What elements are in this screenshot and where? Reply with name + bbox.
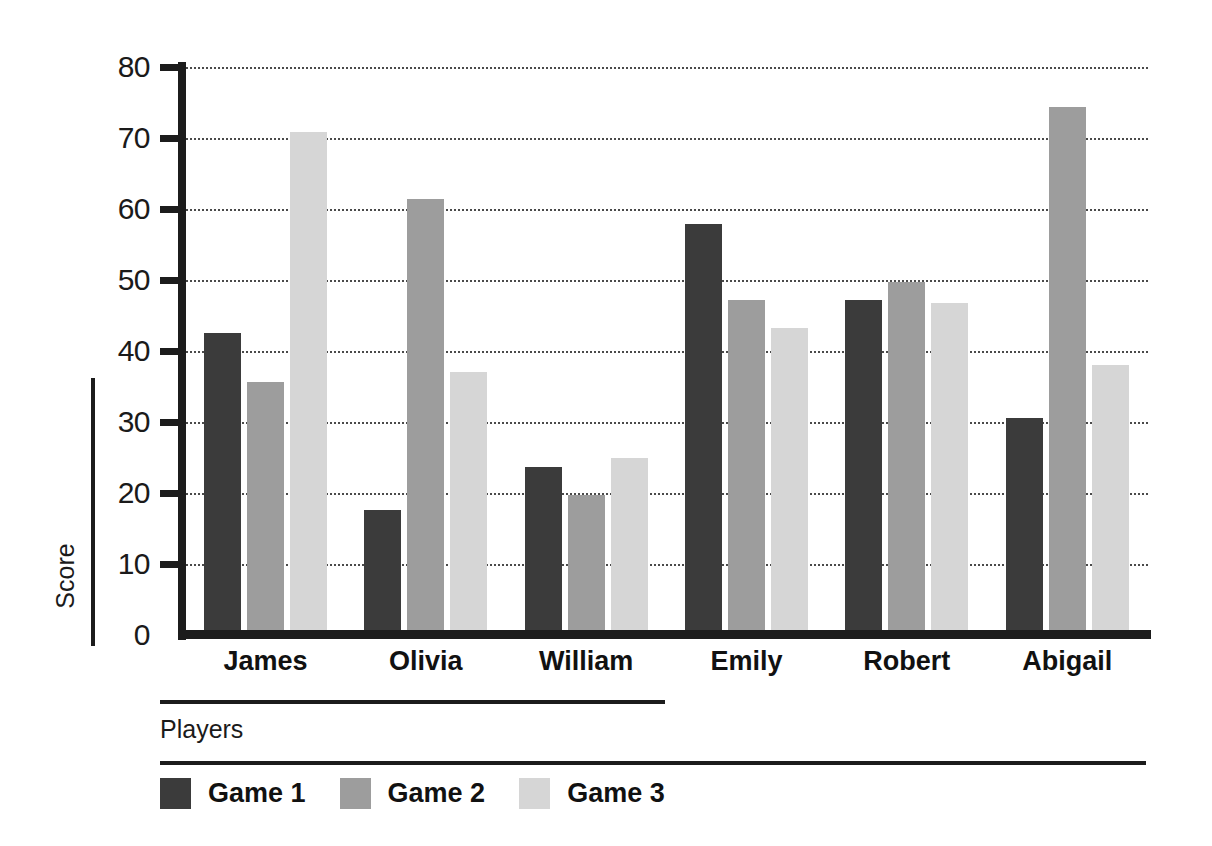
bar-group-robert (845, 67, 968, 635)
gridline-80 (186, 67, 1148, 69)
y-tick-label-wrap-80: 80 (45, 52, 150, 82)
bar-chart: 01020304050607080 JamesOliviaWilliamEmil… (0, 0, 1212, 846)
gridline-40 (186, 351, 1148, 353)
y-tick-mark-40 (160, 348, 180, 355)
bar-robert-game-3[interactable] (931, 303, 968, 635)
legend-swatch-icon (340, 778, 371, 809)
bar-olivia-game-1[interactable] (364, 510, 401, 635)
bar-group-william (525, 67, 648, 635)
x-axis-title-rule (160, 700, 665, 704)
plot-area (186, 67, 1148, 635)
legend-item-game-3[interactable]: Game 3 (519, 778, 665, 809)
bar-olivia-game-3[interactable] (450, 372, 487, 635)
gridline-60 (186, 209, 1148, 211)
gridline-70 (186, 138, 1148, 140)
bar-abigail-game-1[interactable] (1006, 418, 1043, 635)
bar-james-game-3[interactable] (290, 132, 327, 635)
y-tick-mark-20 (160, 490, 180, 497)
y-tick-mark-70 (160, 135, 180, 142)
gridline-50 (186, 280, 1148, 282)
bar-group-james (204, 67, 327, 635)
bar-william-game-1[interactable] (525, 467, 562, 635)
x-axis-line (178, 630, 1151, 639)
y-tick-mark-30 (160, 419, 180, 426)
legend-swatch-icon (519, 778, 550, 809)
y-tick-label: 0 (90, 620, 150, 650)
legend-item-game-2[interactable]: Game 2 (340, 778, 486, 809)
gridline-20 (186, 493, 1148, 495)
y-tick-mark-60 (160, 206, 180, 213)
y-tick-label-wrap-50: 50 (45, 265, 150, 295)
y-tick-label: 10 (90, 549, 150, 579)
y-tick-label: 70 (90, 123, 150, 153)
bar-james-game-2[interactable] (247, 382, 284, 635)
y-tick-label: 30 (90, 407, 150, 437)
y-tick-label: 50 (90, 265, 150, 295)
bar-group-emily (685, 67, 808, 635)
bar-group-olivia (364, 67, 487, 635)
y-axis-title-rule (91, 378, 95, 646)
y-tick-label: 20 (90, 478, 150, 508)
legend: Game 1Game 2Game 3 (160, 778, 699, 809)
bar-abigail-game-2[interactable] (1049, 107, 1086, 635)
bar-james-game-1[interactable] (204, 333, 241, 635)
bar-robert-game-1[interactable] (845, 300, 882, 635)
legend-label: Game 3 (567, 778, 665, 809)
category-label-abigail: Abigail (957, 646, 1177, 677)
bar-abigail-game-3[interactable] (1092, 365, 1129, 636)
y-tick-label-wrap-60: 60 (45, 194, 150, 224)
y-tick-label-wrap-70: 70 (45, 123, 150, 153)
bar-william-game-2[interactable] (568, 495, 605, 635)
bar-robert-game-2[interactable] (888, 282, 925, 635)
legend-label: Game 2 (388, 778, 486, 809)
y-axis-title: Score (51, 501, 80, 651)
x-axis-title: Players (160, 715, 243, 744)
y-tick-mark-80 (160, 64, 180, 71)
y-tick-mark-50 (160, 277, 180, 284)
y-tick-label: 60 (90, 194, 150, 224)
legend-label: Game 1 (208, 778, 306, 809)
bar-emily-game-2[interactable] (728, 300, 765, 635)
legend-separator-rule (160, 761, 1146, 765)
gridline-30 (186, 422, 1148, 424)
y-tick-label: 40 (90, 336, 150, 366)
bar-group-abigail (1006, 67, 1129, 635)
legend-swatch-icon (160, 778, 191, 809)
legend-item-game-1[interactable]: Game 1 (160, 778, 306, 809)
y-tick-label-wrap-30: 30 (45, 407, 150, 437)
y-tick-label-wrap-40: 40 (45, 336, 150, 366)
y-tick-mark-10 (160, 561, 180, 568)
bar-olivia-game-2[interactable] (407, 199, 444, 635)
bar-emily-game-1[interactable] (685, 224, 722, 635)
gridline-10 (186, 564, 1148, 566)
bar-emily-game-3[interactable] (771, 328, 808, 635)
y-tick-label: 80 (90, 52, 150, 82)
bar-william-game-3[interactable] (611, 458, 648, 636)
